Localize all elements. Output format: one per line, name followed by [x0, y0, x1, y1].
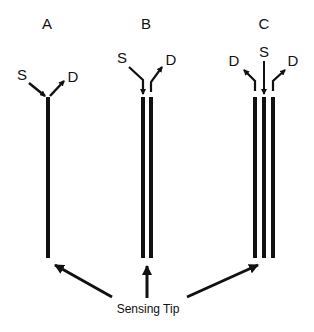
sensing-tip-caption: Sensing Tip	[117, 302, 180, 316]
probe-fiber-c-2	[262, 97, 266, 258]
source-arrow-b	[129, 67, 143, 94]
probe-fiber-c-1	[253, 97, 257, 258]
source-label-c: S	[259, 43, 269, 60]
drain-label-c-right: D	[288, 52, 299, 69]
tip-arrow-a	[55, 265, 112, 297]
tip-arrow-c	[187, 265, 258, 297]
drain-arrow-c-left	[244, 70, 255, 91]
panel-label-b: B	[141, 15, 151, 32]
drain-arrow-c-right	[273, 70, 285, 91]
panel-label-c: C	[259, 15, 270, 32]
drain-arrow-a	[50, 81, 64, 96]
sensing-tip-callout: Sensing Tip	[55, 265, 258, 316]
drain-label-c-left: D	[229, 52, 240, 69]
panel-b: B S D	[117, 15, 177, 258]
drain-label-a: D	[68, 68, 79, 85]
source-label-a: S	[17, 66, 27, 83]
drain-label-b: D	[166, 51, 177, 68]
probe-fiber-c-3	[271, 97, 275, 258]
probe-fiber-b-2	[149, 97, 153, 258]
panel-label-a: A	[42, 15, 52, 32]
source-label-b: S	[117, 49, 127, 66]
panel-c: C S D D	[229, 15, 299, 258]
drain-arrow-b	[151, 67, 162, 92]
probe-fiber-a	[46, 97, 50, 258]
probe-fiber-b-1	[141, 97, 145, 258]
probe-diagram: A S D B S D C S D D Sensing Tip	[0, 0, 314, 332]
panel-a: A S D	[17, 15, 79, 258]
source-arrow-a	[29, 83, 45, 96]
